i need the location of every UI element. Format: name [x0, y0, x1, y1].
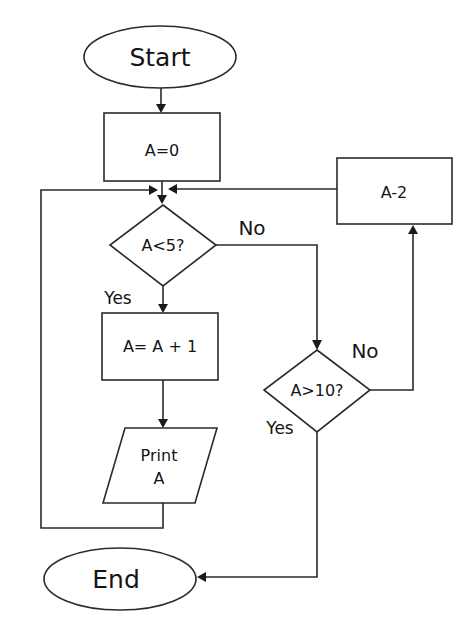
node-increment: A= A + 1: [102, 313, 218, 380]
check-lt5-label: A<5?: [141, 236, 184, 255]
arrowhead-icon: [158, 419, 168, 428]
node-check-lt5: A<5?: [110, 205, 216, 286]
node-print: Print A: [103, 428, 217, 503]
node-init: A=0: [104, 113, 220, 181]
edge-label-lt5-yes: Yes: [103, 288, 132, 308]
arrowhead-icon: [158, 304, 168, 313]
edge-gt10-no: [370, 231, 413, 390]
node-decrement: A-2: [337, 158, 452, 224]
arrowhead-icon: [168, 184, 177, 194]
arrowhead-icon: [408, 225, 418, 234]
start-label: Start: [129, 43, 190, 72]
edge-check-no: [216, 245, 317, 343]
arrowhead-icon: [156, 104, 166, 113]
edge-label-lt5-no: No: [238, 216, 265, 240]
arrowhead-icon: [312, 340, 322, 350]
flowchart-canvas: Start A=0 A-2 A<5? No Yes A= A + 1 Print…: [0, 0, 476, 637]
edge-gt10-yes: [204, 432, 317, 577]
arrowhead-icon: [197, 572, 206, 582]
print-label-line1: Print: [141, 446, 178, 465]
node-start: Start: [84, 26, 236, 88]
node-end: End: [44, 548, 196, 610]
print-label-line2: A: [154, 469, 165, 488]
end-label: End: [92, 565, 140, 594]
edge-label-gt10-yes: Yes: [265, 418, 294, 438]
arrowhead-icon: [149, 185, 158, 195]
io-shape: [103, 428, 217, 503]
init-label: A=0: [145, 141, 180, 160]
increment-label: A= A + 1: [123, 337, 197, 356]
decrement-label: A-2: [381, 183, 408, 202]
arrowhead-icon: [157, 195, 167, 204]
edge-label-gt10-no: No: [351, 339, 378, 363]
check-gt10-label: A>10?: [290, 381, 343, 400]
